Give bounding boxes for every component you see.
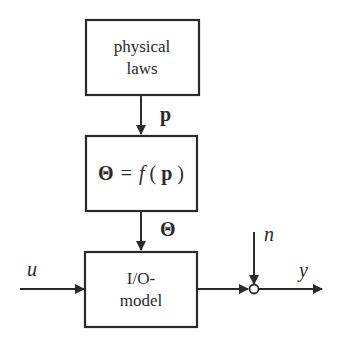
equals-sign: = bbox=[121, 162, 132, 184]
parameter-map-block: Θ = f ( p ) bbox=[86, 136, 197, 211]
parameter-map-equation: Θ = f ( p ) bbox=[98, 162, 184, 185]
summing-junction bbox=[250, 285, 259, 294]
io-model-block: I/O- model bbox=[85, 252, 197, 327]
physical-laws-box bbox=[86, 20, 199, 95]
block-diagram: physical laws p Θ = f ( p ) Θ I/O- model… bbox=[0, 0, 339, 345]
open-paren: ( bbox=[149, 162, 156, 185]
io-model-line1: I/O- bbox=[127, 269, 156, 288]
physical-laws-line1: physical bbox=[114, 37, 171, 56]
physical-laws-line2: laws bbox=[126, 59, 157, 78]
io-model-line2: model bbox=[120, 291, 163, 310]
theta-label: Θ bbox=[160, 218, 176, 240]
n-label: n bbox=[264, 223, 274, 245]
theta-symbol: Θ bbox=[98, 162, 114, 184]
function-f: f bbox=[139, 162, 147, 185]
u-label: u bbox=[27, 258, 37, 280]
io-model-box bbox=[85, 252, 197, 327]
close-paren: ) bbox=[177, 162, 184, 185]
p-label: p bbox=[160, 103, 171, 126]
arg-p: p bbox=[161, 162, 172, 185]
y-label: y bbox=[297, 259, 308, 282]
physical-laws-block: physical laws bbox=[86, 20, 199, 95]
